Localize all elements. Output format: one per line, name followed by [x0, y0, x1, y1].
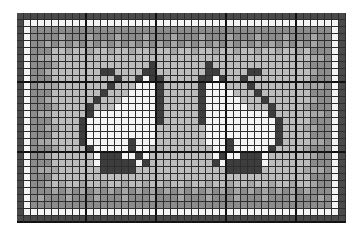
chart-cell: [325, 195, 332, 202]
chart-cell: [101, 76, 108, 83]
chart-cell: [66, 41, 73, 48]
chart-cell: [262, 13, 269, 20]
chart-cell: [332, 76, 339, 83]
chart-cell: [206, 118, 213, 125]
chart-cell: [45, 34, 52, 41]
chart-cell: [38, 104, 45, 111]
chart-cell: [185, 62, 192, 69]
chart-cell: [339, 174, 346, 181]
chart-cell: [66, 167, 73, 174]
chart-cell: [52, 62, 59, 69]
chart-cell: [143, 55, 150, 62]
chart-cell: [318, 174, 325, 181]
chart-cell: [269, 13, 276, 20]
chart-cell: [241, 20, 248, 27]
chart-cell: [304, 160, 311, 167]
chart-cell: [199, 48, 206, 55]
chart-cell: [206, 167, 213, 174]
chart-cell: [24, 202, 31, 209]
chart-cell: [185, 146, 192, 153]
chart-cell: [234, 69, 241, 76]
chart-cell: [220, 139, 227, 146]
chart-cell: [108, 216, 115, 223]
chart-cell: [164, 139, 171, 146]
chart-cell: [297, 41, 304, 48]
chart-cell: [318, 27, 325, 34]
chart-cell: [332, 27, 339, 34]
chart-cell: [297, 146, 304, 153]
chart-cell: [325, 90, 332, 97]
chart-cell: [157, 111, 164, 118]
chart-cell: [290, 167, 297, 174]
chart-cell: [339, 104, 346, 111]
chart-cell: [87, 13, 94, 20]
chart-cell: [234, 118, 241, 125]
chart-cell: [178, 153, 185, 160]
chart-cell: [339, 41, 346, 48]
chart-cell: [248, 83, 255, 90]
chart-cell: [311, 48, 318, 55]
chart-cell: [297, 132, 304, 139]
chart-cell: [220, 216, 227, 223]
chart-cell: [122, 55, 129, 62]
chart-cell: [297, 181, 304, 188]
chart-cell: [66, 160, 73, 167]
chart-cell: [318, 20, 325, 27]
chart-cell: [241, 202, 248, 209]
chart-cell: [157, 125, 164, 132]
chart-cell: [255, 209, 262, 216]
chart-cell: [171, 90, 178, 97]
chart-cell: [31, 139, 38, 146]
chart-cell: [304, 111, 311, 118]
chart-cell: [332, 41, 339, 48]
chart-cell: [213, 27, 220, 34]
chart-cell: [297, 27, 304, 34]
chart-cell: [157, 174, 164, 181]
chart-cell: [192, 195, 199, 202]
chart-cell: [129, 216, 136, 223]
chart-cell: [255, 62, 262, 69]
chart-cell: [115, 41, 122, 48]
chart-cell: [199, 167, 206, 174]
chart-cell: [304, 104, 311, 111]
chart-cell: [164, 27, 171, 34]
chart-cell: [108, 132, 115, 139]
chart-cell: [213, 90, 220, 97]
chart-cell: [59, 160, 66, 167]
chart-cell: [164, 174, 171, 181]
chart-cell: [101, 202, 108, 209]
chart-cell: [199, 20, 206, 27]
chart-cell: [31, 174, 38, 181]
chart-cell: [17, 83, 24, 90]
chart-cell: [262, 69, 269, 76]
chart-cell: [122, 13, 129, 20]
chart-cell: [73, 139, 80, 146]
chart-cell: [234, 97, 241, 104]
chart-cell: [45, 139, 52, 146]
chart-cell: [59, 139, 66, 146]
chart-cell: [59, 209, 66, 216]
chart-cell: [24, 76, 31, 83]
chart-cell: [220, 55, 227, 62]
chart-cell: [304, 20, 311, 27]
chart-cell: [87, 62, 94, 69]
chart-cell: [115, 55, 122, 62]
chart-cell: [178, 125, 185, 132]
chart-cell: [339, 202, 346, 209]
chart-cell: [87, 55, 94, 62]
chart-cell: [108, 209, 115, 216]
chart-cell: [87, 132, 94, 139]
chart-cell: [31, 167, 38, 174]
chart-cell: [115, 20, 122, 27]
chart-cell: [122, 111, 129, 118]
chart-cell: [24, 83, 31, 90]
chart-cell: [157, 202, 164, 209]
chart-cell: [262, 76, 269, 83]
chart-cell: [150, 83, 157, 90]
chart-cell: [157, 41, 164, 48]
chart-cell: [220, 27, 227, 34]
chart-cell: [150, 146, 157, 153]
chart-cell: [269, 139, 276, 146]
chart-cell: [248, 174, 255, 181]
chart-cell: [220, 62, 227, 69]
